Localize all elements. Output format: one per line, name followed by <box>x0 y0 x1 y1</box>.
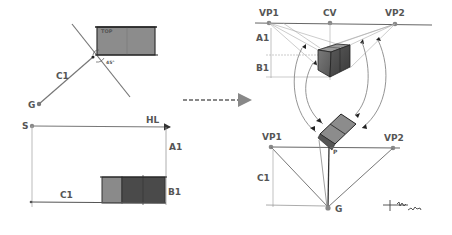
hl-label: HL <box>146 115 160 125</box>
signature <box>383 200 421 211</box>
plan-view: TOP 45° C1 G <box>28 24 158 110</box>
elevation-block-light <box>102 177 122 203</box>
g-label: G <box>28 100 35 110</box>
vp2-lower-label: VP2 <box>384 133 404 143</box>
c1-label: C1 <box>56 71 69 81</box>
g-lower-label: G <box>335 204 342 214</box>
rotation-arc-1 <box>294 48 316 132</box>
elevation-block-dark <box>122 177 165 203</box>
perspective-cube <box>318 44 350 77</box>
b1-label-right: B1 <box>256 63 269 73</box>
b1-label: B1 <box>168 187 181 197</box>
vp1-label: VP1 <box>259 8 279 18</box>
a1-label: A1 <box>169 142 182 152</box>
horizon-line-right <box>255 23 432 25</box>
g-lower-point <box>325 205 330 210</box>
g-point <box>37 102 41 106</box>
vp1-lower-label: VP1 <box>262 132 282 142</box>
top-label: TOP <box>101 28 113 34</box>
perspective-view: VP1 CV VP2 A1 B1 <box>255 8 432 150</box>
a1-label-right: A1 <box>256 33 269 43</box>
horizon-line <box>32 126 170 127</box>
c1-lower-label: C1 <box>257 173 270 183</box>
elevation-view: S HL A1 B1 C1 <box>22 115 182 207</box>
c1-label-bottom: C1 <box>60 190 73 200</box>
vp2-label: VP2 <box>385 8 405 18</box>
perspective-diagram: TOP 45° C1 G S HL A1 B1 C1 VP1 <box>0 0 452 235</box>
s-label: S <box>22 121 28 131</box>
angle-label: 45° <box>106 60 115 65</box>
cv-label: CV <box>323 8 337 18</box>
rotated-plan <box>318 114 356 150</box>
p-label: P <box>333 148 338 155</box>
